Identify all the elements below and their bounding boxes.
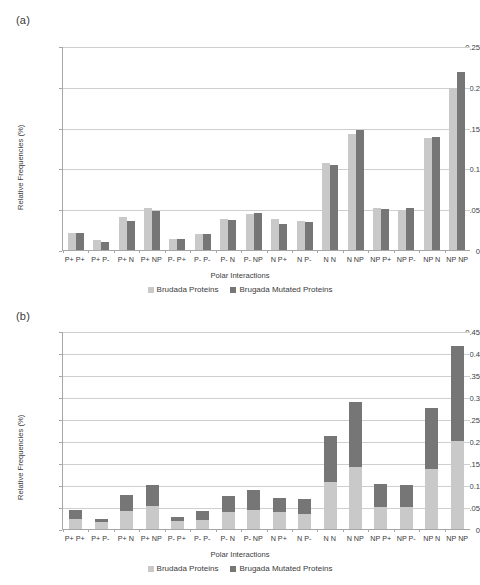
stacked-bar[interactable] (451, 346, 464, 529)
stacked-bar[interactable] (400, 485, 413, 529)
bar-group[interactable] (368, 47, 393, 250)
stacked-bar[interactable] (374, 484, 387, 529)
bar-segment-brudada-proteins[interactable] (273, 512, 286, 529)
stacked-bar[interactable] (146, 485, 159, 529)
bar-brudada-proteins[interactable] (348, 134, 356, 250)
bar-segment-brudada-proteins[interactable] (298, 514, 311, 529)
bar-segment-brudada-proteins[interactable] (425, 469, 438, 529)
bar-brudada-proteins[interactable] (93, 240, 101, 250)
bar-group[interactable] (165, 332, 190, 529)
bar-brugada-mutated-proteins[interactable] (101, 242, 109, 250)
bar-segment-brudada-proteins[interactable] (374, 507, 387, 529)
bar-brudada-proteins[interactable] (169, 239, 177, 250)
bar-segment-brudada-proteins[interactable] (451, 441, 464, 529)
bar-brudada-proteins[interactable] (297, 221, 305, 250)
bar-segment-brudada-proteins[interactable] (146, 506, 159, 529)
stacked-bar[interactable] (425, 408, 438, 529)
bar-brugada-mutated-proteins[interactable] (432, 137, 440, 250)
stacked-bar[interactable] (298, 499, 311, 529)
bar-segment-brudada-proteins[interactable] (222, 512, 235, 529)
bar-group[interactable] (445, 332, 470, 529)
stacked-bar[interactable] (171, 517, 184, 529)
bar-segment-brugada-mutated-proteins[interactable] (196, 511, 209, 520)
bar-segment-brugada-mutated-proteins[interactable] (120, 495, 133, 511)
bar-brugada-mutated-proteins[interactable] (279, 224, 287, 250)
bar-segment-brugada-mutated-proteins[interactable] (374, 484, 387, 506)
stacked-bar[interactable] (222, 496, 235, 529)
bar-segment-brudada-proteins[interactable] (171, 521, 184, 529)
bar-group[interactable] (445, 47, 470, 250)
bar-group[interactable] (317, 47, 342, 250)
stacked-bar[interactable] (247, 490, 260, 529)
bar-group[interactable] (216, 332, 241, 529)
bar-brudada-proteins[interactable] (373, 208, 381, 250)
bar-brugada-mutated-proteins[interactable] (254, 213, 262, 250)
bar-segment-brudada-proteins[interactable] (120, 511, 133, 529)
bar-brudada-proteins[interactable] (144, 208, 152, 250)
bar-brugada-mutated-proteins[interactable] (177, 239, 185, 250)
bar-group[interactable] (88, 332, 113, 529)
bar-brugada-mutated-proteins[interactable] (330, 165, 338, 250)
bar-brugada-mutated-proteins[interactable] (76, 233, 84, 250)
bar-brudada-proteins[interactable] (449, 88, 457, 250)
bar-brudada-proteins[interactable] (398, 210, 406, 250)
bar-group[interactable] (190, 47, 215, 250)
bar-group[interactable] (419, 332, 444, 529)
bar-segment-brugada-mutated-proteins[interactable] (451, 346, 464, 441)
bar-group[interactable] (343, 332, 368, 529)
stacked-bar[interactable] (349, 402, 362, 529)
bar-brudada-proteins[interactable] (68, 233, 76, 250)
bar-group[interactable] (190, 332, 215, 529)
bar-segment-brudada-proteins[interactable] (247, 510, 260, 529)
bar-group[interactable] (394, 47, 419, 250)
stacked-bar[interactable] (69, 510, 82, 529)
bar-segment-brudada-proteins[interactable] (349, 467, 362, 529)
bar-segment-brudada-proteins[interactable] (69, 519, 82, 529)
bar-brudada-proteins[interactable] (220, 219, 228, 250)
bar-group[interactable] (88, 47, 113, 250)
bar-segment-brugada-mutated-proteins[interactable] (349, 402, 362, 467)
bar-brudada-proteins[interactable] (322, 163, 330, 250)
bar-group[interactable] (292, 332, 317, 529)
bar-group[interactable] (139, 47, 164, 250)
bar-group[interactable] (216, 47, 241, 250)
bar-brugada-mutated-proteins[interactable] (203, 234, 211, 250)
bar-group[interactable] (394, 332, 419, 529)
bar-brugada-mutated-proteins[interactable] (457, 72, 465, 250)
stacked-bar[interactable] (324, 436, 337, 529)
bar-brugada-mutated-proteins[interactable] (228, 220, 236, 250)
bar-group[interactable] (114, 47, 139, 250)
bar-segment-brudada-proteins[interactable] (196, 520, 209, 529)
bar-group[interactable] (292, 47, 317, 250)
stacked-bar[interactable] (120, 495, 133, 529)
stacked-bar[interactable] (273, 498, 286, 529)
bar-brugada-mutated-proteins[interactable] (127, 221, 135, 250)
bar-brugada-mutated-proteins[interactable] (152, 211, 160, 250)
bar-segment-brudada-proteins[interactable] (324, 482, 337, 529)
bar-brugada-mutated-proteins[interactable] (356, 130, 364, 250)
bar-group[interactable] (114, 332, 139, 529)
bar-segment-brugada-mutated-proteins[interactable] (222, 496, 235, 512)
bar-brudada-proteins[interactable] (271, 219, 279, 250)
bar-brudada-proteins[interactable] (119, 217, 127, 250)
bar-group[interactable] (241, 332, 266, 529)
stacked-bar[interactable] (196, 511, 209, 529)
bar-brugada-mutated-proteins[interactable] (305, 222, 313, 250)
bar-group[interactable] (241, 47, 266, 250)
bar-segment-brugada-mutated-proteins[interactable] (247, 490, 260, 510)
bar-group[interactable] (368, 332, 393, 529)
bar-group[interactable] (419, 47, 444, 250)
bar-brudada-proteins[interactable] (246, 214, 254, 250)
bar-segment-brugada-mutated-proteins[interactable] (273, 498, 286, 512)
bar-group[interactable] (165, 47, 190, 250)
bar-segment-brugada-mutated-proteins[interactable] (146, 485, 159, 506)
bar-group[interactable] (343, 47, 368, 250)
bar-group[interactable] (267, 47, 292, 250)
bar-segment-brugada-mutated-proteins[interactable] (298, 499, 311, 514)
bar-group[interactable] (63, 332, 88, 529)
bar-segment-brudada-proteins[interactable] (95, 522, 108, 529)
bar-segment-brugada-mutated-proteins[interactable] (324, 436, 337, 482)
bar-brudada-proteins[interactable] (195, 234, 203, 250)
bar-segment-brugada-mutated-proteins[interactable] (425, 408, 438, 469)
bar-brugada-mutated-proteins[interactable] (406, 208, 414, 250)
